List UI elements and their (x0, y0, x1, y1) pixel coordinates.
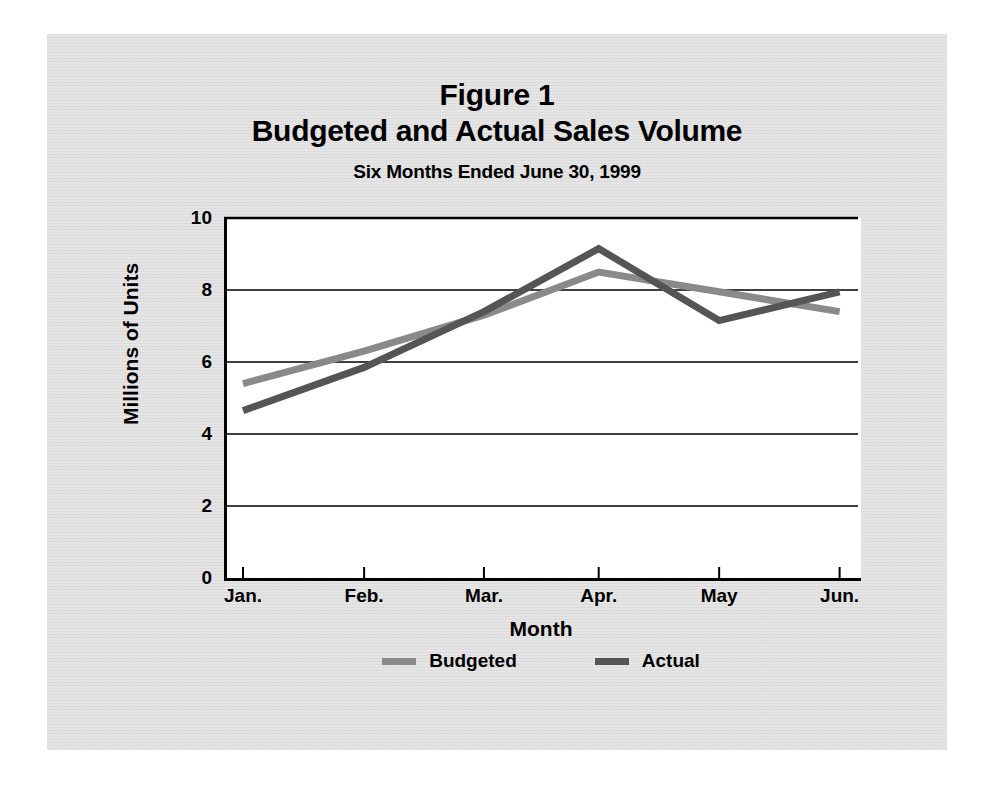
chart-legend: BudgetedActual (224, 650, 858, 672)
x-axis-tick-label: Apr. (580, 585, 617, 607)
x-axis-ticks (243, 567, 840, 578)
y-axis-tick-label: 8 (172, 279, 212, 301)
figure-title-line-1: Figure 1 (47, 78, 947, 112)
series-line-actual (243, 249, 840, 411)
legend-swatch (382, 658, 416, 665)
figure-root: Figure 1 Budgeted and Actual Sales Volum… (0, 0, 994, 794)
legend-swatch (595, 658, 629, 665)
legend-entry: Actual (595, 650, 700, 672)
x-axis-title: Month (224, 617, 858, 641)
legend-label: Budgeted (429, 650, 517, 672)
legend-label: Actual (642, 650, 700, 672)
x-axis-tick-labels: Jan.Feb.Mar.Apr.MayJun. (224, 585, 858, 615)
figure-title-line-2: Budgeted and Actual Sales Volume (47, 114, 947, 148)
x-axis-tick-label: Jan. (224, 585, 262, 607)
legend-entry: Budgeted (382, 650, 517, 672)
figure-panel: Figure 1 Budgeted and Actual Sales Volum… (47, 34, 947, 750)
x-axis-tick-label: May (701, 585, 738, 607)
y-axis-tick-label: 4 (172, 423, 212, 445)
x-axis-tick-label: Jun. (820, 585, 859, 607)
y-axis-tick-label: 2 (172, 495, 212, 517)
chart-plot-area (224, 218, 858, 578)
y-axis-tick-label: 6 (172, 351, 212, 373)
y-axis-tick-labels: 0246810 (172, 218, 212, 578)
figure-subtitle: Six Months Ended June 30, 1999 (47, 161, 947, 183)
x-axis-tick-label: Mar. (465, 585, 503, 607)
series-line-budgeted (243, 272, 840, 384)
data-series-group (243, 249, 840, 411)
y-axis-tick-label: 10 (172, 207, 212, 229)
x-axis-tick-label: Feb. (345, 585, 384, 607)
y-axis-tick-label: 0 (172, 567, 212, 589)
chart-svg (224, 218, 858, 578)
y-axis-title: Millions of Units (119, 234, 143, 454)
